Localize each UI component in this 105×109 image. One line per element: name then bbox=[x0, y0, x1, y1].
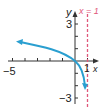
tick-label-1: 1 bbox=[84, 63, 90, 74]
y-axis-arrow-icon bbox=[73, 11, 78, 17]
curve-left-arrow-icon bbox=[16, 39, 23, 45]
x-axis-arrow-icon bbox=[93, 59, 99, 64]
x-axis-label: x bbox=[92, 64, 98, 74]
y-axis-label: y bbox=[65, 6, 73, 18]
tick-label-3: 3 bbox=[66, 18, 72, 30]
graph: y x x = 1 −5 1 3 −3 bbox=[0, 0, 105, 109]
tick-label-neg3: −3 bbox=[59, 92, 72, 104]
tick-label-neg5: −5 bbox=[3, 65, 16, 77]
asymptote-label: x = 1 bbox=[78, 6, 99, 16]
